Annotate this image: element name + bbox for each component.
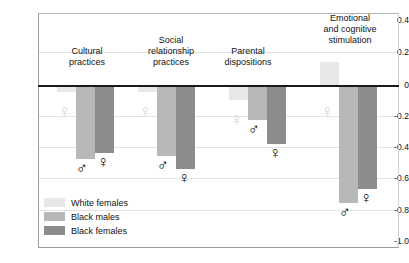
female-symbol-black-females-icon: ♀ [360,190,372,206]
female-symbol-white-females-icon: ♀ [321,103,334,120]
legend-label: Black males [71,212,120,222]
female-symbol-white-females-icon: ♀ [230,111,243,128]
female-symbol-white-females-icon: ♀ [139,103,152,120]
bar-white-females [229,86,248,100]
legend-item-black-males: Black males [44,210,128,223]
bar-white-females [320,62,339,86]
legend-swatch-black-males-icon [44,212,65,221]
bar-black-females [267,86,286,144]
female-symbol-white-females-icon: ♀ [58,103,71,120]
female-symbol-black-females-icon: ♀ [97,154,109,170]
bar-black-females [358,86,377,189]
bar-black-females [176,86,195,169]
legend-label: Black females [71,226,127,236]
grouped-bar-chart: 0.4 0.2 0 -0.2 -0.4 -0.6 -0.8 -1.0 Cultu… [0,0,409,263]
legend-label: White females [71,198,128,208]
male-symbol-black-males-icon: ♂ [157,157,169,173]
bar-black-females [95,86,114,153]
legend-item-black-females: Black females [44,224,128,237]
bar-black-males [339,86,358,203]
female-symbol-black-females-icon: ♀ [269,145,281,161]
bar-black-males [248,86,267,120]
legend-swatch-black-females-icon [44,226,65,235]
legend-item-white-females: White females [44,196,128,209]
male-symbol-black-males-icon: ♂ [339,204,351,220]
female-symbol-black-females-icon: ♀ [178,170,190,186]
bar-black-males [157,86,176,156]
legend: White females Black males Black females [44,196,128,238]
bar-black-males [76,86,95,159]
male-symbol-black-males-icon: ♂ [76,160,88,176]
zero-axis-line [38,85,399,87]
male-symbol-black-males-icon: ♂ [248,121,260,137]
legend-swatch-white-females-icon [44,198,65,207]
